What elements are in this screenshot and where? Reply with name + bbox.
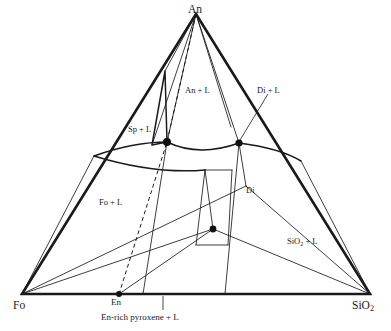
field-label-fo-l: Fo + L <box>99 198 122 207</box>
construction-line-group <box>22 14 370 294</box>
field-label-di-l: Di + L <box>257 86 280 95</box>
field-label-di: Di <box>246 186 255 195</box>
invariant-point-di-peritectic <box>235 139 242 146</box>
construction-line-an-apex-fan-2 <box>196 14 231 127</box>
leader-line-group <box>163 94 268 310</box>
base-label-en: En <box>111 298 121 307</box>
construction-line-sio2-to-edge <box>301 161 370 294</box>
leader-line-di-l-leader <box>240 94 268 140</box>
dashed-join-group <box>119 14 196 294</box>
ternary-triangle-outline <box>22 14 370 294</box>
vertex-label-fo: Fo <box>13 300 25 312</box>
field-label-sio2-l: SiO2 + L <box>287 237 318 247</box>
construction-line-di-vertical <box>225 143 239 294</box>
vertex-label-sio2: SiO2 <box>352 300 374 314</box>
boundary-curve-cotectic-sp-di <box>167 142 239 150</box>
construction-line-en-to-eutectic <box>119 229 213 294</box>
boundary-curve-fo-lower-boundary <box>94 156 205 171</box>
construction-line-prism-left <box>196 170 205 245</box>
field-label-sp-l: Sp + L <box>128 125 151 134</box>
construction-line-sp-vertical <box>143 142 167 294</box>
field-label-an-l: An + L <box>185 86 210 95</box>
invariant-point-sp-peritectic <box>163 138 171 146</box>
construction-line-an-apex-fan-1 <box>152 14 196 145</box>
construction-line-prism-right <box>228 170 232 245</box>
boundary-curve-di-right-boundary <box>239 143 301 161</box>
construction-line-an-to-di <box>196 14 239 143</box>
construction-line-di-down <box>239 143 246 186</box>
vertex-label-an: An <box>188 4 202 16</box>
invariant-point-ternary-eutectic <box>210 226 217 233</box>
dashed-join-an-en-join <box>119 14 196 294</box>
base-label-en-rich-pyroxene: En-rich pyroxene + L <box>101 313 179 322</box>
construction-line-eutectic-up <box>205 170 213 229</box>
diagram-canvas <box>0 0 391 331</box>
invariant-point-group <box>116 138 243 297</box>
ternary-phase-diagram-figure: AnFoSiO2 An + LDi + LSp + LFo + LSiO2 + … <box>0 0 391 331</box>
